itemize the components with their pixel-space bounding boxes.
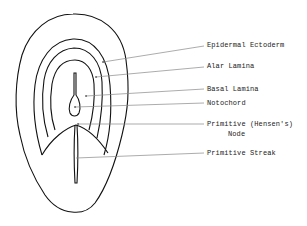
leader-epidermal-ectoderm — [103, 46, 204, 62]
leader-basal-lamina — [86, 89, 204, 96]
embryonic-disc-outline — [16, 14, 128, 212]
notochord-shape — [69, 73, 80, 116]
label-basal-lamina: Basal Lamina — [207, 85, 259, 93]
label-notochord: Notochord — [207, 99, 246, 107]
label-epidermal-ectoderm: Epidermal Ectoderm — [207, 41, 284, 49]
embryo-diagram — [0, 0, 307, 226]
leader-primitive-streak — [76, 153, 204, 158]
leader-notochord — [75, 103, 204, 107]
leader-alar-lamina — [96, 67, 204, 77]
label-primitive-streak: Primitive Streak — [207, 149, 276, 157]
ring-basal — [51, 60, 95, 130]
primitive-streak — [74, 125, 78, 183]
label-primitive-node-line2: Node — [228, 130, 245, 138]
label-alar-lamina: Alar Lamina — [207, 62, 254, 70]
label-primitive-node: Primitive (Hensen's) — [207, 120, 293, 128]
